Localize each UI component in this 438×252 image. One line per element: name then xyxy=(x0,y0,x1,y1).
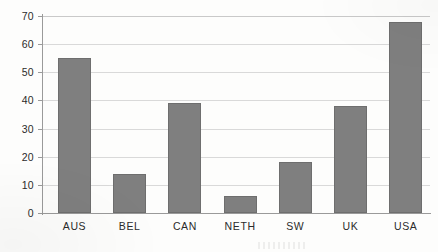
x-axis-tick-label: NETH xyxy=(213,221,268,232)
x-axis-tick-label: UK xyxy=(323,221,378,232)
bar-usa[interactable] xyxy=(389,22,422,213)
y-axis-tick-label: 60 xyxy=(4,39,34,50)
y-axis-tick-label: 70 xyxy=(4,11,34,22)
bar-neth[interactable] xyxy=(224,196,257,213)
y-axis-tick-label: 50 xyxy=(4,67,34,78)
y-axis-tick-label: 0 xyxy=(4,208,34,219)
x-axis-tick-label: BEL xyxy=(102,221,157,232)
bar-uk[interactable] xyxy=(334,106,367,213)
bar-can[interactable] xyxy=(168,103,201,213)
y-axis-tick-label: 30 xyxy=(4,124,34,135)
bar-aus[interactable] xyxy=(58,58,91,213)
bar-bel[interactable] xyxy=(113,174,146,213)
y-axis-tick-label: 20 xyxy=(4,152,34,163)
x-axis-line xyxy=(42,213,431,214)
bar-sw[interactable] xyxy=(279,162,312,213)
scan-artifact xyxy=(258,242,306,249)
bar-chart: 706050403020100 AUSBELCANNETHSWUKUSA xyxy=(0,0,438,252)
y-axis-tick-label: 10 xyxy=(4,180,34,191)
x-axis-tick-label: CAN xyxy=(157,221,212,232)
y-axis-tick-label: 40 xyxy=(4,95,34,106)
plot-area xyxy=(42,16,430,213)
x-axis-tick-label: USA xyxy=(378,221,433,232)
x-axis-tick-label: SW xyxy=(268,221,323,232)
x-axis-tick-label: AUS xyxy=(47,221,102,232)
